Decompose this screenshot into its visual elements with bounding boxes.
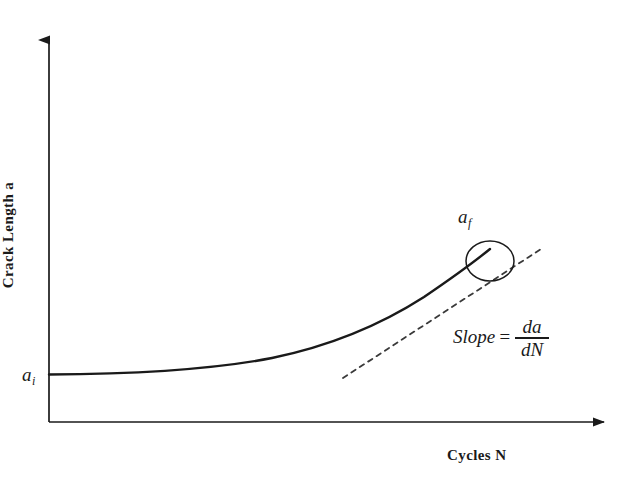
slope-equation: Slope = da dN — [453, 316, 549, 358]
chart-canvas — [0, 0, 628, 479]
derivative-fraction: da dN — [515, 317, 549, 359]
y-axis-title: Crack Length a — [0, 150, 26, 320]
fraction-numerator: da — [519, 317, 546, 336]
slope-label: Slope — [453, 326, 495, 348]
initial-crack-length-label: ai — [22, 364, 35, 389]
crack-growth-figure: Crack Length a Cycles N ai af Slope = da… — [0, 0, 628, 479]
tangent-line — [343, 249, 541, 378]
x-axis-title: Cycles N — [447, 447, 506, 464]
final-crack-subscript: f — [468, 216, 472, 230]
fraction-denominator: dN — [517, 340, 547, 359]
final-crack-length-label: af — [458, 206, 471, 231]
equals-sign: = — [498, 326, 511, 348]
final-crack-base: a — [458, 206, 468, 227]
initial-crack-subscript: i — [32, 374, 36, 388]
crack-growth-curve — [49, 249, 490, 375]
initial-crack-base: a — [22, 364, 32, 385]
